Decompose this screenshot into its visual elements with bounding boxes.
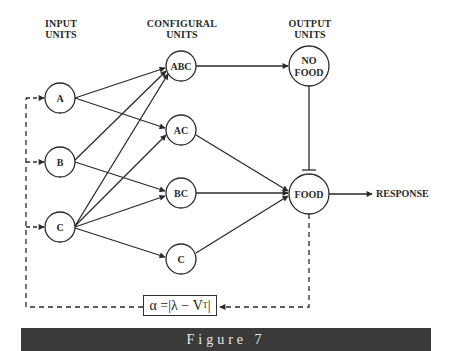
label-input-B: B xyxy=(57,157,64,168)
figure-caption-banner: Figure 7 xyxy=(21,328,431,351)
label-config-AC: AC xyxy=(174,125,188,136)
figure-caption: Figure 7 xyxy=(186,332,265,348)
edge-A-ABC xyxy=(75,68,165,98)
edge-A-AC xyxy=(75,98,165,128)
edge-AC-FOOD xyxy=(196,135,288,191)
header-input-units: INPUT UNITS xyxy=(35,18,87,40)
feedback-dashed-right xyxy=(220,214,309,307)
edge-B-ABC xyxy=(75,71,166,160)
feedback-dashed-left xyxy=(26,98,143,307)
label-output-no: NO xyxy=(302,55,317,66)
edge-C-Cc xyxy=(75,228,165,257)
edge-C-BC xyxy=(75,196,165,227)
network-diagram xyxy=(0,0,451,351)
formula-close: | xyxy=(208,298,211,314)
formula-main: α =|λ − V xyxy=(149,298,202,314)
edge-C-AC xyxy=(75,135,166,226)
label-config-ABC: ABC xyxy=(170,61,191,72)
edge-B-BC xyxy=(75,162,165,191)
edge-Cc-FOOD xyxy=(196,196,288,253)
label-output-food: FOOD xyxy=(295,189,324,200)
learning-rate-formula: α =|λ − VT| xyxy=(143,295,217,316)
label-input-A: A xyxy=(56,93,63,104)
response-label: RESPONSE xyxy=(376,188,429,199)
label-config-C: C xyxy=(177,254,184,265)
label-output-food-line2: FOOD xyxy=(295,67,324,78)
header-configural-units: CONFIGURAL UNITS xyxy=(140,18,224,40)
label-config-BC: BC xyxy=(174,188,188,199)
label-input-C: C xyxy=(56,222,63,233)
edge-C-ABC xyxy=(75,74,168,226)
header-output-units: OUTPUT UNITS xyxy=(280,18,340,40)
